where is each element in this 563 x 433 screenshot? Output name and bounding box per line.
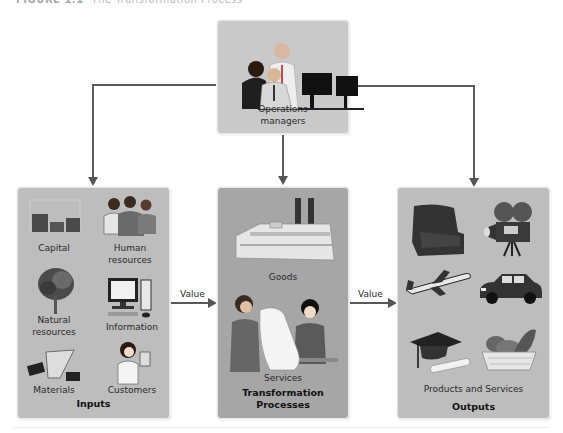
factory-icon — [230, 192, 340, 262]
steel-beams-icon — [26, 346, 86, 386]
value-arrow-left-shaft — [170, 302, 210, 304]
money-stacks-icon — [28, 198, 88, 238]
outputs-title: Outputs — [398, 401, 549, 412]
value-arrow-right-icon — [388, 298, 397, 308]
customer-woman-icon — [110, 338, 160, 388]
armchair-icon — [408, 202, 468, 258]
inputs-title: Inputs — [18, 398, 169, 409]
operations-label-line2: managers — [218, 116, 348, 127]
human-resources-label-line2: resources — [100, 255, 160, 266]
figure-title: FIGURE 1.1The Transformation Process — [16, 0, 243, 5]
inputs-box: Capital Human resources Natural resource… — [17, 187, 170, 419]
connector-top-right-horizontal — [347, 85, 475, 87]
customers-label: Customers — [100, 385, 164, 396]
services-label: Services — [218, 373, 348, 384]
figure-label: FIGURE 1.1 — [16, 0, 84, 5]
service-people-icon — [228, 288, 338, 378]
connector-left-vertical — [92, 84, 94, 179]
outputs-box: Products and Services Outputs — [397, 187, 550, 419]
transformation-title-line1: Transformation — [218, 387, 348, 398]
transformation-box: Goods Services Transformation Processes — [217, 187, 349, 419]
goods-label: Goods — [218, 272, 348, 283]
value-arrow-left-icon — [208, 298, 217, 308]
value-label-right: Value — [358, 289, 383, 300]
arrow-to-transformation-icon — [278, 176, 288, 185]
connector-right-vertical — [473, 85, 475, 180]
connector-center-vertical — [282, 132, 284, 178]
products-and-services-caption: Products and Services — [398, 384, 549, 395]
operations-managers-box: Operations managers — [217, 20, 349, 134]
natural-resources-label-line2: resources — [24, 327, 84, 338]
operations-label-line1: Operations — [218, 104, 348, 115]
airplane-icon — [404, 268, 474, 298]
value-arrow-right-shaft — [348, 302, 390, 304]
figure-title-text: The Transformation Process — [92, 0, 243, 5]
human-resources-label-line1: Human — [100, 243, 160, 254]
computer-icon — [106, 276, 156, 320]
people-group-icon — [100, 194, 160, 238]
tree-icon — [32, 266, 82, 316]
bread-basket-icon — [478, 324, 540, 374]
arrow-to-outputs-icon — [469, 178, 479, 187]
arrow-to-inputs-icon — [88, 177, 98, 186]
bottom-divider — [14, 427, 549, 428]
car-icon — [478, 272, 544, 306]
capital-label: Capital — [24, 243, 84, 254]
information-label: Information — [100, 322, 164, 333]
transformation-title-line2: Processes — [218, 399, 348, 410]
graduation-cap-diploma-icon — [408, 328, 474, 378]
movie-camera-icon — [482, 200, 542, 260]
connector-top-left-horizontal — [93, 84, 217, 86]
natural-resources-label-line1: Natural — [24, 315, 84, 326]
people-at-computers-icon — [218, 21, 348, 101]
materials-label: Materials — [22, 385, 86, 396]
value-label-left: Value — [180, 289, 205, 300]
